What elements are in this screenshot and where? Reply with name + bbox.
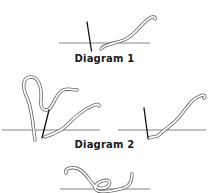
needle-icon (42, 110, 49, 138)
needle-icon (87, 22, 92, 51)
needle-icon (144, 108, 148, 138)
diagram-2-right (118, 95, 206, 138)
diagram-2-left (2, 77, 100, 140)
diagram-3 (60, 168, 150, 192)
diagram-1 (59, 17, 155, 51)
yarn-strand (149, 95, 205, 138)
diagram-2-caption: Diagram 2 (0, 139, 209, 150)
diagram-1-caption: Diagram 1 (0, 53, 209, 64)
knitting-diagram-canvas (0, 0, 209, 193)
